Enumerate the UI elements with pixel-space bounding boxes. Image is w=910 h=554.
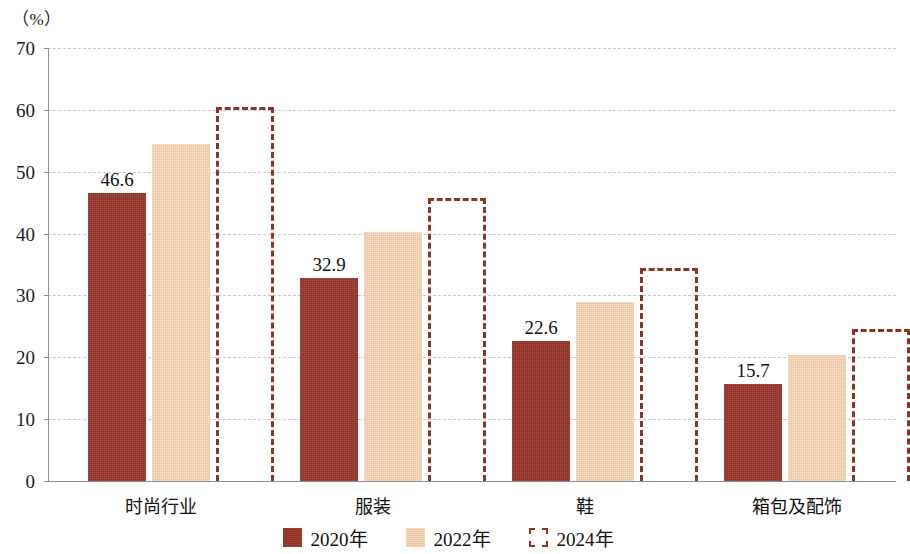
bar-value-label-2: 22.6 (524, 317, 557, 339)
bar-2020-3[interactable]: 15.7 (724, 384, 782, 481)
y-tick-label-30: 30 (16, 285, 35, 307)
legend-label-2024: 2024年 (557, 524, 614, 551)
y-tick-40: 40 (44, 234, 49, 235)
category-label-1: 服装 (355, 492, 391, 518)
legend-item-2022[interactable]: 2022年 (406, 524, 491, 551)
bar-2022-0[interactable] (152, 144, 210, 481)
bar-value-label-3: 15.7 (736, 360, 769, 382)
legend-item-2020[interactable]: 2020年 (283, 524, 368, 551)
y-tick-20: 20 (44, 357, 49, 358)
y-tick-label-40: 40 (16, 224, 35, 246)
legend-item-2024[interactable]: 2024年 (529, 524, 614, 551)
legend-label-2020: 2020年 (311, 524, 368, 551)
bar-group-3: 15.7 (702, 48, 892, 481)
legend: 2020年 2022年 2024年 (0, 524, 896, 551)
legend-swatch-2022-icon (406, 528, 425, 547)
category-label-2: 鞋 (576, 492, 594, 518)
y-tick-label-50: 50 (16, 162, 35, 184)
legend-swatch-2024-icon (529, 528, 548, 547)
bar-value-label-0: 46.6 (100, 169, 133, 191)
y-tick-50: 50 (44, 172, 49, 173)
bar-2022-3[interactable] (788, 355, 846, 481)
bar-2020-1[interactable]: 32.9 (300, 278, 358, 482)
bar-value-label-1: 32.9 (312, 254, 345, 276)
y-axis: 70 60 50 40 30 20 10 0 (48, 48, 49, 481)
y-tick-label-20: 20 (16, 347, 35, 369)
bar-2024-0[interactable] (216, 107, 274, 481)
y-tick-10: 10 (44, 419, 49, 420)
legend-label-2022: 2022年 (434, 524, 491, 551)
y-tick-label-0: 0 (26, 471, 36, 493)
bar-2020-0[interactable]: 46.6 (88, 193, 146, 481)
bar-group-1: 32.9 (278, 48, 468, 481)
y-tick-label-70: 70 (16, 38, 35, 60)
bar-2024-2[interactable] (640, 268, 698, 481)
y-tick-label-10: 10 (16, 409, 35, 431)
bar-2022-2[interactable] (576, 302, 634, 481)
y-axis-unit-label: （%） (12, 5, 62, 30)
y-tick-70: 70 (44, 48, 49, 49)
bar-group-2: 22.6 (490, 48, 680, 481)
y-tick-label-60: 60 (16, 100, 35, 122)
y-tick-60: 60 (44, 110, 49, 111)
bar-2024-1[interactable] (428, 198, 486, 481)
axis-baseline (48, 481, 896, 482)
bar-2024-3[interactable] (852, 329, 910, 481)
bar-2020-2[interactable]: 22.6 (512, 341, 570, 481)
bar-2022-1[interactable] (364, 232, 422, 481)
category-label-3: 箱包及配饰 (752, 492, 842, 518)
y-tick-30: 30 (44, 295, 49, 296)
plot-area: 70 60 50 40 30 20 10 0 (48, 48, 896, 481)
bar-group-0: 46.6 (66, 48, 256, 481)
y-tick-0: 0 (44, 481, 49, 482)
category-label-0: 时尚行业 (125, 492, 197, 518)
legend-swatch-2020-icon (283, 528, 302, 547)
